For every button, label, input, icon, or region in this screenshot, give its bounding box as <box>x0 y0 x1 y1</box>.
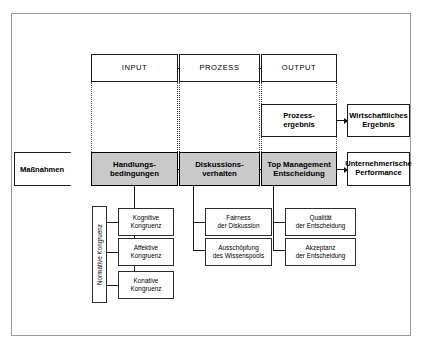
node-unternehmerische-performance-label: Unternehmerische Performance <box>343 160 414 178</box>
header-prozess: PROZESS <box>179 54 260 82</box>
connector-bracket-kognitive <box>107 222 118 223</box>
leaf-kognitive-kongruenz-label: Kognitive Kongruenz <box>129 214 164 229</box>
leaf-konative-kongruenz-label: Konative Kongruenz <box>129 277 164 292</box>
leaf-fairness-der-diskussion: Fairness der Diskussion <box>205 208 272 236</box>
node-diskussionsverhalten-label: Diskussions- verhalten <box>193 160 246 178</box>
node-diskussionsverhalten: Diskussions- verhalten <box>179 152 260 186</box>
connector-prozess-fairness <box>193 222 205 223</box>
column-divider-input-right <box>177 82 178 156</box>
node-wirtschaftliches-ergebnis: Wirtschaftliches Ergebnis <box>347 104 410 137</box>
connector-bracket-affektive <box>107 252 118 253</box>
bracket-normative-kongruenz-label: Normative Kongruenz <box>96 224 103 285</box>
node-handlungsbedingungen: Handlungs- bedingungen <box>91 152 178 186</box>
leaf-ausschoepfung-des-wissenspools-label: Ausschöpfung des Wissenspools <box>211 244 267 259</box>
column-divider-prozess-right <box>259 82 260 156</box>
leaf-ausschoepfung-des-wissenspools: Ausschöpfung des Wissenspools <box>205 238 272 266</box>
leaf-affektive-kongruenz: Affektive Kongruenz <box>118 238 174 266</box>
header-output-label: OUTPUT <box>280 64 319 73</box>
column-divider-prozess-left <box>179 82 180 156</box>
node-massnahmen-label: Maßnahmen <box>14 165 70 174</box>
header-output: OUTPUT <box>261 54 337 82</box>
bracket-normative-kongruenz: Normative Kongruenz <box>92 206 107 303</box>
header-prozess-label: PROZESS <box>197 64 241 73</box>
leaf-kognitive-kongruenz: Kognitive Kongruenz <box>118 208 174 236</box>
node-top-management-entscheidung-label: Top Management Entscheidung <box>265 160 333 178</box>
leaf-akzeptanz-der-entscheidung-label: Akzeptanz der Entscheidung <box>294 244 348 259</box>
leaf-konative-kongruenz: Konative Kongruenz <box>118 271 174 299</box>
leaf-akzeptanz-der-entscheidung: Akzeptanz der Entscheidung <box>285 238 356 266</box>
node-massnahmen: Maßnahmen <box>14 152 92 186</box>
diagram-canvas: INPUT PROZESS OUTPUT Prozess- ergebnis W… <box>0 0 430 354</box>
connector-prozess-ausschoepfung <box>193 250 205 251</box>
leaf-affektive-kongruenz-label: Affektive Kongruenz <box>129 244 164 259</box>
node-top-management-entscheidung: Top Management Entscheidung <box>261 152 337 186</box>
connector-output-akzeptanz <box>273 250 285 251</box>
connector-trunk-output <box>273 186 274 250</box>
header-input: INPUT <box>91 54 178 82</box>
node-wirtschaftliches-ergebnis-label: Wirtschaftliches Ergebnis <box>347 112 410 130</box>
node-unternehmerische-performance: Unternehmerische Performance <box>347 152 410 186</box>
arrow-prozessergebnis-to-wirtschaftliches <box>337 120 347 121</box>
leaf-qualitaet-der-entscheidung: Qualität der Entscheidung <box>285 208 356 236</box>
column-divider-input-left <box>91 82 92 156</box>
header-input-label: INPUT <box>120 64 150 73</box>
node-handlungsbedingungen-label: Handlungs- bedingungen <box>108 160 161 178</box>
connector-trunk-prozess <box>193 186 194 250</box>
leaf-fairness-der-diskussion-label: Fairness der Diskussion <box>216 214 262 229</box>
node-prozessergebnis-label: Prozess- ergebnis <box>281 112 317 130</box>
node-prozessergebnis: Prozess- ergebnis <box>261 104 337 137</box>
leaf-qualitaet-der-entscheidung-label: Qualität der Entscheidung <box>294 214 348 229</box>
connector-output-qualitaet <box>273 222 285 223</box>
connector-bracket-konative <box>107 285 118 286</box>
